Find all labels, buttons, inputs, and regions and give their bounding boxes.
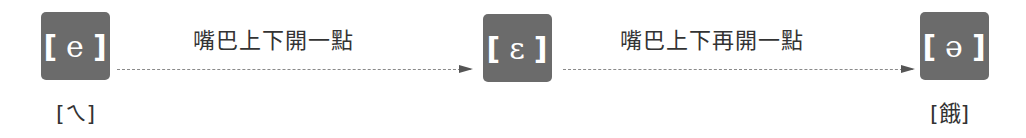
arrow-2 <box>563 69 913 70</box>
phoneme-sub-label-schwa: [餓] <box>930 95 969 127</box>
left-bracket: [ <box>922 29 937 64</box>
phoneme-symbol: e <box>66 29 85 64</box>
right-bracket: ] <box>93 29 108 64</box>
phoneme-box-e: [ e ] <box>41 12 110 80</box>
left-bracket: [ <box>487 31 502 66</box>
edge-label-2: 嘴巴上下再開一點 <box>620 22 804 54</box>
left-bracket: [ <box>43 29 58 64</box>
arrowhead-icon <box>901 65 915 73</box>
phoneme-symbol: ɛ <box>509 31 526 66</box>
phoneme-sub-label-e: [ㄟ] <box>56 95 95 127</box>
right-bracket: ] <box>534 31 549 66</box>
phoneme-box-schwa: [ ə ] <box>920 12 989 80</box>
right-bracket: ] <box>972 29 987 64</box>
arrowhead-icon <box>459 65 473 73</box>
arrow-1 <box>117 69 471 70</box>
phoneme-box-epsilon: [ ɛ ] <box>483 14 552 82</box>
phoneme-symbol: ə <box>945 29 964 64</box>
edge-label-1: 嘴巴上下開一點 <box>193 22 354 54</box>
